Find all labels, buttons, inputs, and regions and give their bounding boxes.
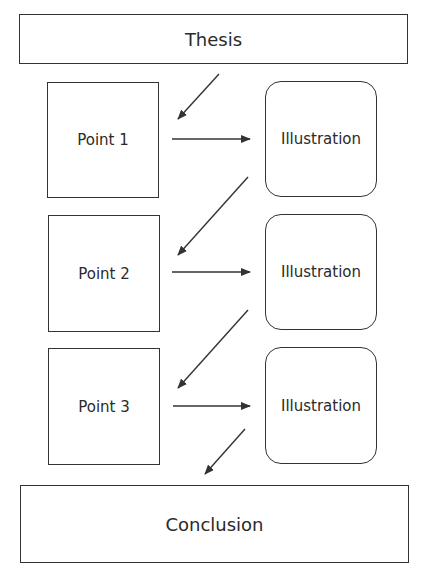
arrow-illustration-3-to-conclusion: [205, 429, 245, 474]
arrow-illustration-2-to-point-3: [178, 310, 248, 388]
connector-arrows: [0, 0, 427, 584]
arrow-illustration-1-to-point-2: [178, 177, 248, 255]
arrow-thesis-to-point-1: [178, 74, 219, 119]
